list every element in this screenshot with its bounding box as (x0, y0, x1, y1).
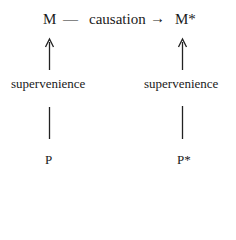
left-supervenience-label: supervenience (11, 77, 85, 90)
node-p: P (45, 153, 52, 166)
node-p-star: P* (177, 153, 191, 166)
right-supervenience-label: supervenience (144, 77, 218, 90)
